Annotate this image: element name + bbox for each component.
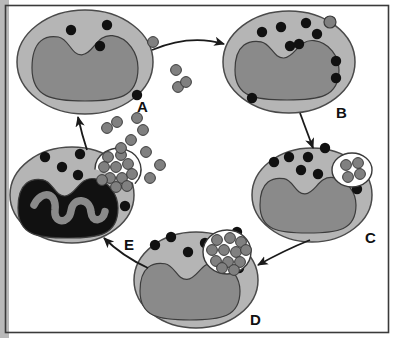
free-particle-11 xyxy=(145,173,156,184)
engulfed-particle-d-11 xyxy=(229,265,240,276)
free-particle-9 xyxy=(141,147,152,158)
cytoplasmic-granule-b-8 xyxy=(247,93,257,103)
cytoplasmic-granule-e-1 xyxy=(57,162,67,172)
free-particle-6 xyxy=(126,135,137,146)
engulfed-particle-e-10 xyxy=(122,181,133,192)
engulfed-particle-c-2 xyxy=(355,169,366,180)
engulfed-particle-d-10 xyxy=(217,263,228,274)
cytoplasmic-granule-b-0 xyxy=(257,27,267,37)
cytoplasmic-granule-b-2 xyxy=(301,18,311,28)
engulfed-particle-d-6 xyxy=(241,245,252,256)
free-particle-3 xyxy=(181,77,192,88)
engulfed-particle-e-7 xyxy=(127,169,138,180)
cytoplasmic-granule-b-1 xyxy=(276,22,286,32)
cytoplasmic-granule-d-0 xyxy=(150,240,160,250)
figure-canvas: ABCDE xyxy=(0,0,394,338)
stage-label-a: A xyxy=(137,99,148,114)
engulfed-particle-c-1 xyxy=(353,158,364,169)
stage-label-d: D xyxy=(250,312,261,327)
engulfed-particle-c-3 xyxy=(343,172,354,183)
engulfed-particle-d-3 xyxy=(207,245,218,256)
engulfed-particle-e-2 xyxy=(99,162,110,173)
engulfed-particle-d-4 xyxy=(219,245,230,256)
cytoplasmic-granule-b-5 xyxy=(294,39,304,49)
engulfed-particle-c-0 xyxy=(341,160,352,171)
stage-label-c: C xyxy=(365,230,376,245)
cell-stage-a xyxy=(17,10,153,114)
engulfed-particle-e-8 xyxy=(97,175,108,186)
left-edge-band xyxy=(0,0,9,338)
free-particle-4 xyxy=(102,123,113,134)
membrane-bound-particle-b xyxy=(324,16,336,28)
cytoplasmic-granule-c-2 xyxy=(303,152,313,162)
cytoplasmic-granule-c-1 xyxy=(284,152,294,162)
free-particle-1 xyxy=(171,65,182,76)
stage-label-b: B xyxy=(336,105,347,120)
free-particle-8 xyxy=(138,125,149,136)
cytoplasmic-granule-c-5 xyxy=(313,169,323,179)
engulfed-particle-d-1 xyxy=(225,233,236,244)
cytoplasmic-granule-a-2 xyxy=(95,41,105,51)
cell-stage-b xyxy=(223,11,355,113)
cytoplasmic-granule-e-4 xyxy=(120,201,130,211)
free-particle-7 xyxy=(116,143,127,154)
cytoplasmic-granule-c-4 xyxy=(296,165,306,175)
phagocytosis-cycle-diagram xyxy=(0,0,394,338)
cytoplasmic-granule-b-6 xyxy=(331,56,341,66)
cytoplasmic-granule-a-0 xyxy=(66,25,76,35)
cell-stage-d xyxy=(134,227,258,328)
cytoplasmic-granule-b-4 xyxy=(285,41,295,51)
engulfed-particle-e-0 xyxy=(103,152,114,163)
cytoplasmic-granule-e-2 xyxy=(75,149,85,159)
stage-label-e: E xyxy=(124,237,134,252)
phagosome-vacuole-c xyxy=(332,153,372,187)
cytoplasmic-granule-b-3 xyxy=(312,29,322,39)
free-particle-10 xyxy=(155,160,166,171)
free-particle-5 xyxy=(112,117,123,128)
engulfed-particle-d-5 xyxy=(231,247,242,258)
cytoplasmic-granule-c-3 xyxy=(320,143,330,153)
cytoplasmic-granule-c-0 xyxy=(269,157,279,167)
cytoplasmic-granule-b-7 xyxy=(331,73,341,83)
engulfed-particle-e-4 xyxy=(123,159,134,170)
cytoplasmic-granule-d-2 xyxy=(183,247,193,257)
cytoplasmic-granule-d-1 xyxy=(166,232,176,242)
engulfed-particle-d-0 xyxy=(212,235,223,246)
engulfed-particle-e-3 xyxy=(111,162,122,173)
cytoplasmic-granule-e-0 xyxy=(40,152,50,162)
free-particle-0 xyxy=(148,37,159,48)
cytoplasmic-granule-e-3 xyxy=(73,170,83,180)
cytoplasmic-granule-a-1 xyxy=(102,20,112,30)
engulfed-particle-e-9 xyxy=(111,182,122,193)
